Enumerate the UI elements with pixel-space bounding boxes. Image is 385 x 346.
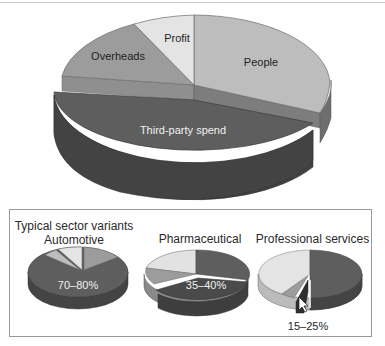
pharmaceutical-value-label: 35–40% — [186, 279, 227, 291]
label-third-party: Third-party spend — [140, 124, 226, 136]
professional-pie: 15–25% — [258, 250, 362, 332]
sector-pies: 70–80% 35–40% 15–25% — [10, 210, 373, 338]
label-overheads: Overheads — [91, 50, 145, 62]
pharmaceutical-pie: 35–40% — [144, 250, 250, 316]
label-profit: Profit — [164, 32, 190, 44]
sector-variants-panel: Typical sector variants Automotive Pharm… — [9, 209, 372, 337]
main-pie-chart: Profit Overheads People Third-party spen… — [0, 0, 385, 205]
automotive-pie: 70–80% — [28, 247, 128, 309]
automotive-value-label: 70–80% — [58, 279, 99, 291]
professional-value-label: 15–25% — [288, 320, 329, 332]
pharmaceutical-people-slice — [196, 250, 250, 280]
label-people: People — [244, 56, 278, 68]
